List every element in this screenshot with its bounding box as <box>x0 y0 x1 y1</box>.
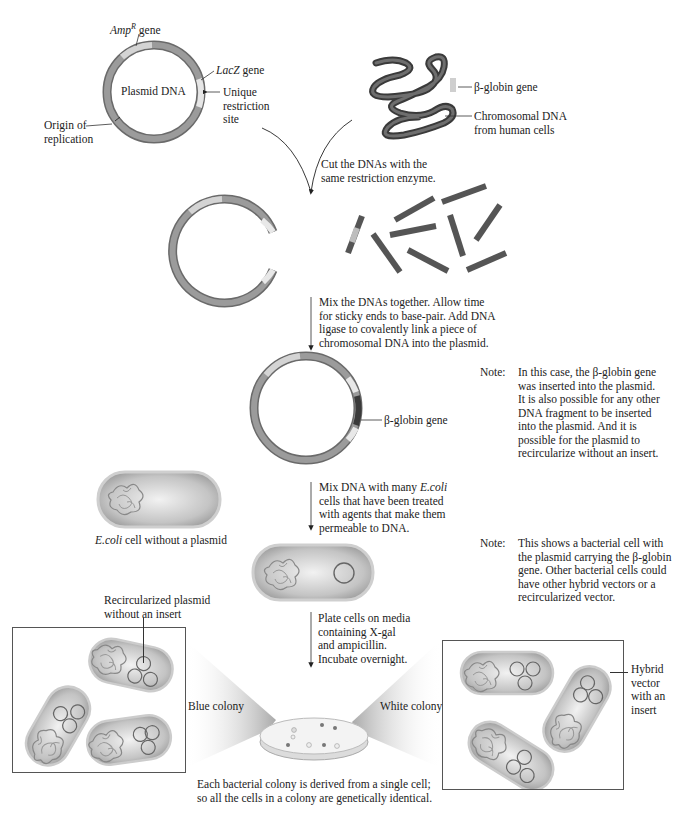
ecoli-cell-empty <box>98 472 220 527</box>
restriction-site-label: Unique restriction site <box>223 86 270 127</box>
recirc-leader-line <box>143 618 144 663</box>
blue-colony-inset <box>12 627 186 773</box>
step-transform-text: Mix DNA with many E.coli cells that have… <box>319 481 447 535</box>
hybrid-plasmid <box>254 356 359 460</box>
lacz-gene-label: LacZ gene <box>216 64 264 78</box>
note-insert: Note: In this case, the β-globin gene wa… <box>480 366 660 461</box>
plasmid-title: Plasmid DNA <box>121 85 186 99</box>
blue-colony-label: Blue colony <box>188 700 244 714</box>
cut-plasmid <box>173 199 273 303</box>
white-colony-cells <box>443 641 623 789</box>
step-plate-text: Plate cells on media containing X-gal an… <box>318 612 410 666</box>
colony-caption: Each bacterial colony is derived from a … <box>197 778 432 805</box>
recirc-plasmid-label: Recircularized plasmid without an insert <box>104 594 210 621</box>
ecoli-empty-caption: E.coli cell without a plasmid <box>95 534 227 548</box>
hybrid-vector-label: Hybrid vector with an insert <box>631 663 665 717</box>
chromosomal-dna-label: Chromosomal DNA from human cells <box>474 110 567 137</box>
origin-label: Origin of replication <box>44 119 93 146</box>
dna-fragments <box>348 186 506 272</box>
white-colony-inset <box>442 640 624 790</box>
ecoli-cell-transformed <box>253 545 373 600</box>
ampr-gene-label: AmpR gene <box>110 20 161 37</box>
white-colony-label: White colony <box>380 700 442 714</box>
step-mix-text: Mix the DNAs together. Allow time for st… <box>319 296 496 350</box>
beta-globin-gene-label: β-globin gene <box>474 81 538 95</box>
petri-dish <box>260 718 368 760</box>
step-cut-text: Cut the DNAs with the same restriction e… <box>321 158 436 185</box>
note-transformed-cell: Note: This shows a bacterial cell with t… <box>480 537 671 605</box>
blue-colony-cells <box>13 628 185 772</box>
hybrid-beta-globin-label: β-globin gene <box>384 414 448 428</box>
hybrid-leader-line <box>610 672 628 673</box>
chromosomal-dna <box>373 57 456 136</box>
